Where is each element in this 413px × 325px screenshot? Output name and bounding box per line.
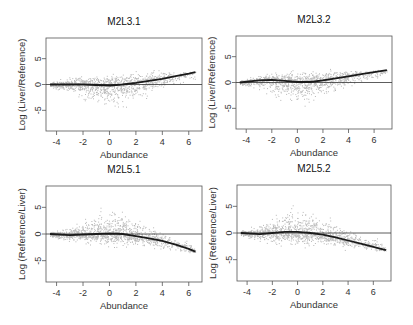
panel-M2L3.2: -4-2024650-5M2L3.2AbundanceLog (Liver/Re… bbox=[206, 14, 392, 158]
panel-M2L5.2: -4-2024650-5M2L5.2AbundanceLog (Referenc… bbox=[207, 163, 391, 310]
x-tick-label: 4 bbox=[160, 137, 165, 147]
x-tick-label: 2 bbox=[133, 137, 138, 147]
panel-M2L5.1: -4-2024650-5M2L5.1AbundanceLog (Referenc… bbox=[16, 164, 202, 311]
x-tick-label: -2 bbox=[268, 287, 276, 297]
y-axis-label: Log (Liver/Reference) bbox=[206, 37, 217, 129]
x-tick-label: 0 bbox=[295, 287, 300, 297]
x-tick-label: -4 bbox=[243, 287, 251, 297]
x-tick-label: 2 bbox=[133, 288, 138, 298]
x-tick-label: 6 bbox=[186, 137, 191, 147]
y-tick-label: -5 bbox=[33, 257, 43, 265]
x-axis-label: Abundance bbox=[290, 299, 338, 310]
x-tick-label: 6 bbox=[372, 135, 377, 145]
y-tick-label: -5 bbox=[33, 106, 43, 114]
x-tick-label: -4 bbox=[53, 137, 61, 147]
x-axis-label: Abundance bbox=[290, 147, 338, 158]
y-tick-label: 0 bbox=[224, 230, 234, 235]
y-tick-label: 5 bbox=[224, 204, 234, 209]
y-tick-label: -5 bbox=[223, 104, 233, 112]
x-tick-label: 4 bbox=[346, 287, 351, 297]
scatter-points bbox=[50, 208, 196, 254]
panel-title: M2L3.1 bbox=[107, 16, 141, 27]
x-tick-label: 0 bbox=[107, 137, 112, 147]
figure-canvas: -4-2024650-5M2L3.1AbundanceLog (Liver/Re… bbox=[0, 0, 413, 325]
x-tick-label: -2 bbox=[79, 137, 87, 147]
x-tick-label: -2 bbox=[268, 135, 276, 145]
x-tick-label: -2 bbox=[79, 288, 87, 298]
y-tick-label: -5 bbox=[224, 256, 234, 264]
y-tick-label: 5 bbox=[223, 54, 233, 59]
panel-title: M2L5.1 bbox=[107, 164, 141, 175]
y-axis-label: Log (Reference/Liver) bbox=[207, 187, 218, 279]
panel-title: M2L3.2 bbox=[297, 14, 331, 25]
x-tick-label: 2 bbox=[320, 135, 325, 145]
x-axis-label: Abundance bbox=[100, 300, 148, 311]
x-tick-label: 4 bbox=[346, 135, 351, 145]
y-axis-label: Log (Reference/Liver) bbox=[16, 188, 27, 280]
panel-M2L3.1: -4-2024650-5M2L3.1AbundanceLog (Liver/Re… bbox=[16, 16, 202, 160]
x-tick-label: 0 bbox=[107, 288, 112, 298]
scatter-points bbox=[240, 69, 388, 107]
x-tick-label: 6 bbox=[371, 287, 376, 297]
y-tick-label: 0 bbox=[33, 82, 43, 87]
panel-title: M2L5.2 bbox=[297, 163, 331, 174]
y-tick-label: 5 bbox=[33, 205, 43, 210]
y-tick-label: 5 bbox=[33, 56, 43, 61]
x-axis-label: Abundance bbox=[100, 149, 148, 160]
x-tick-label: 6 bbox=[186, 288, 191, 298]
y-tick-label: 0 bbox=[223, 80, 233, 85]
y-tick-label: 0 bbox=[33, 231, 43, 236]
x-tick-label: 0 bbox=[295, 135, 300, 145]
x-tick-label: 2 bbox=[320, 287, 325, 297]
figure: -4-2024650-5M2L3.1AbundanceLog (Liver/Re… bbox=[0, 0, 413, 325]
x-tick-label: 4 bbox=[160, 288, 165, 298]
y-axis-label: Log (Liver/Reference) bbox=[16, 39, 27, 131]
x-tick-label: -4 bbox=[242, 135, 250, 145]
x-tick-label: -4 bbox=[53, 288, 61, 298]
